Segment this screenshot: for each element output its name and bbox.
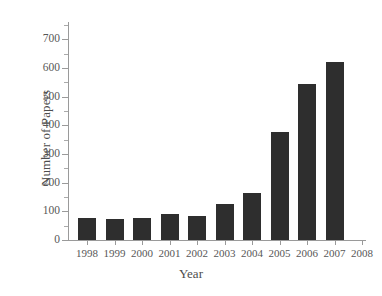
- y-tick-minor: [64, 111, 68, 112]
- x-tick: [170, 240, 171, 245]
- bar: [271, 132, 289, 240]
- y-tick-label: 500: [20, 91, 60, 103]
- y-tick-minor: [64, 82, 68, 83]
- bar: [326, 62, 344, 240]
- x-tick: [115, 240, 116, 245]
- bar: [243, 193, 261, 240]
- y-tick-major: [62, 97, 68, 98]
- y-tick-minor: [64, 140, 68, 141]
- x-tick: [87, 240, 88, 245]
- y-tick-minor: [64, 25, 68, 26]
- y-tick-major: [62, 154, 68, 155]
- y-axis-title: Number of Papers: [38, 48, 54, 228]
- y-tick-minor: [64, 226, 68, 227]
- x-tick: [335, 240, 336, 245]
- x-tick: [280, 240, 281, 245]
- y-tick-minor: [64, 197, 68, 198]
- bar: [298, 84, 316, 240]
- x-tick-label: 2008: [342, 248, 382, 259]
- caption-sliver: [6, 289, 376, 296]
- y-tick-major: [62, 68, 68, 69]
- y-tick-major: [62, 211, 68, 212]
- y-tick-major: [62, 39, 68, 40]
- bar: [216, 204, 234, 240]
- bar: [133, 218, 151, 240]
- y-tick-label: 0: [20, 234, 60, 246]
- y-axis-line: [68, 22, 69, 240]
- bar: [161, 214, 179, 240]
- bar: [106, 219, 124, 240]
- y-tick-label: 100: [20, 205, 60, 217]
- y-tick-minor: [64, 54, 68, 55]
- x-axis-line: [68, 240, 366, 241]
- bar: [188, 216, 206, 240]
- x-tick: [252, 240, 253, 245]
- x-tick: [197, 240, 198, 245]
- y-tick-label: 200: [20, 177, 60, 189]
- x-tick: [142, 240, 143, 245]
- y-tick-major: [62, 125, 68, 126]
- y-tick-major: [62, 240, 68, 241]
- bar: [78, 218, 96, 240]
- y-tick-major: [62, 183, 68, 184]
- plot-area: 0100200300400500600700 19981999200020012…: [68, 22, 366, 240]
- y-tick-label: 600: [20, 62, 60, 74]
- y-tick-label: 400: [20, 119, 60, 131]
- bar-chart-figure: Number of Papers 0100200300400500600700 …: [0, 0, 382, 296]
- y-tick-minor: [64, 168, 68, 169]
- x-tick: [307, 240, 308, 245]
- x-tick: [225, 240, 226, 245]
- y-tick-label: 700: [20, 33, 60, 45]
- y-tick-label: 300: [20, 148, 60, 160]
- x-tick: [362, 240, 363, 245]
- x-axis-title: Year: [0, 266, 382, 282]
